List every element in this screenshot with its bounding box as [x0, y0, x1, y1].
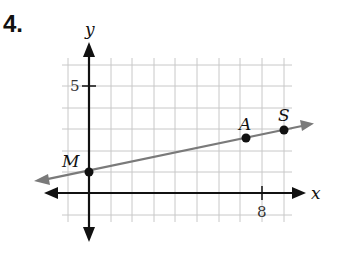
- y-axis-label: y: [84, 19, 95, 39]
- point-m: [85, 168, 94, 177]
- point-s-label: S: [278, 105, 290, 125]
- grid: [62, 58, 292, 222]
- line-right-arrow-icon: [300, 120, 314, 131]
- y-axis-up-arrow-icon: [83, 42, 95, 57]
- x-axis-left-arrow-icon: [44, 187, 58, 199]
- point-s: [280, 126, 289, 135]
- x-tick-label: 8: [257, 203, 267, 221]
- coordinate-graph: M A S y x 8 5: [0, 0, 344, 255]
- y-tick-label: 5: [70, 77, 80, 95]
- point-a: [242, 134, 251, 143]
- y-axis: [82, 42, 96, 242]
- y-axis-down-arrow-icon: [83, 227, 95, 242]
- x-axis-right-arrow-icon: [292, 187, 306, 199]
- line-left-arrow-icon: [34, 174, 50, 185]
- x-axis-label: x: [311, 183, 321, 203]
- point-a-label: A: [237, 114, 251, 134]
- point-m-label: M: [61, 151, 80, 171]
